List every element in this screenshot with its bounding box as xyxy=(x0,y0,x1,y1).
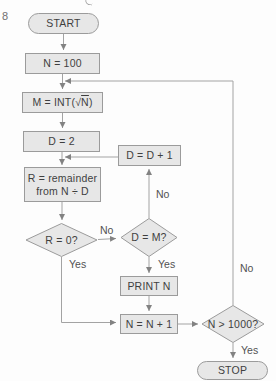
decision-check-r-label: R = 0? xyxy=(45,234,77,247)
decision-check-r: R = 0? xyxy=(25,223,98,257)
process-print-n-label: PRINT N xyxy=(127,280,170,293)
process-compute-m-label: M = INT(√N) xyxy=(32,96,92,109)
decision-check-limit-label: N > 1000? xyxy=(208,318,259,331)
process-increment-n-label: N = N + 1 xyxy=(126,318,173,331)
flowchart-canvas: 8 START N = 100 M = INT(√N) D = 2 xyxy=(0,0,276,381)
process-increment-d-label: D = D + 1 xyxy=(126,149,173,162)
decision-check-d: D = M? xyxy=(120,218,178,257)
process-remainder-label: R = remainderfrom N ÷ D xyxy=(28,172,97,198)
decision-check-limit: N > 1000? xyxy=(201,305,265,343)
process-increment-n: N = N + 1 xyxy=(120,314,178,334)
process-init-n: N = 100 xyxy=(25,53,100,74)
terminator-stop-label: STOP xyxy=(218,364,247,377)
process-print-n: PRINT N xyxy=(120,276,178,296)
edge-label-check-d-no: No xyxy=(156,188,169,200)
terminator-start-label: START xyxy=(46,17,80,30)
edge-label-check-limit-no: No xyxy=(240,262,253,274)
process-init-d: D = 2 xyxy=(23,131,100,152)
edge-label-check-d-yes: Yes xyxy=(158,258,175,270)
terminator-stop: STOP xyxy=(197,361,268,380)
terminator-start: START xyxy=(28,13,99,34)
decision-check-d-label: D = M? xyxy=(131,231,166,244)
edge-label-check-r-yes: Yes xyxy=(69,258,86,270)
process-remainder: R = remainderfrom N ÷ D xyxy=(24,167,101,202)
process-init-n-label: N = 100 xyxy=(43,57,81,70)
edge-label-check-limit-yes: Yes xyxy=(241,344,258,356)
edge-check-r-no xyxy=(98,239,116,240)
process-compute-m: M = INT(√N) xyxy=(22,92,103,113)
process-increment-d: D = D + 1 xyxy=(118,145,181,166)
edge-label-check-r-no: No xyxy=(100,224,113,236)
process-init-d-label: D = 2 xyxy=(48,135,74,148)
